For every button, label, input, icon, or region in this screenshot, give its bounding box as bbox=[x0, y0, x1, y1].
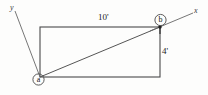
diagonal-line bbox=[40, 27, 160, 77]
dimension-label-right: 4' bbox=[162, 47, 168, 56]
y-axis-line bbox=[15, 11, 40, 77]
node-label-b: b bbox=[155, 16, 166, 24]
dimension-label-top: 10' bbox=[98, 13, 109, 22]
x-axis-label: x bbox=[194, 7, 198, 15]
y-axis-label: y bbox=[10, 4, 14, 12]
geometry-diagram: y x 10' 4' a b bbox=[0, 0, 208, 95]
node-label-a: a bbox=[33, 76, 44, 84]
